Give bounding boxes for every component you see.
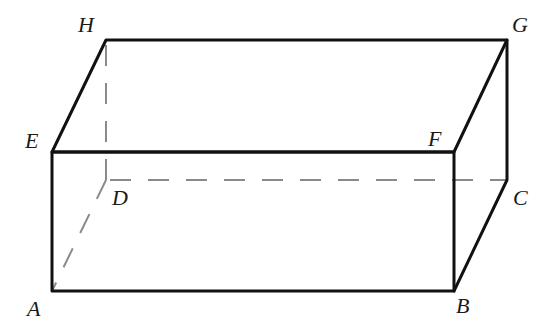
label-E: E	[24, 128, 39, 153]
visible-edges	[52, 40, 507, 291]
rectangular-prism-diagram: H G E F D C A B	[0, 0, 556, 331]
label-D: D	[111, 185, 128, 210]
label-G: G	[512, 12, 528, 37]
label-A: A	[25, 296, 41, 321]
right-face	[454, 40, 507, 291]
label-C: C	[513, 185, 528, 210]
hidden-edges	[52, 40, 507, 291]
label-F: F	[427, 126, 442, 151]
label-H: H	[77, 12, 95, 37]
vertex-labels: H G E F D C A B	[24, 12, 528, 321]
edge-AD	[52, 180, 106, 291]
front-face	[52, 152, 454, 291]
label-B: B	[456, 293, 469, 318]
